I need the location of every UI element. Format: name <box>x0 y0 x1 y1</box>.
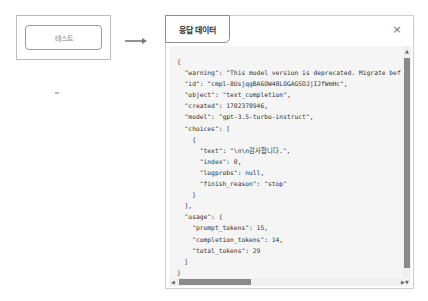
code-line: "created": 1702370946, <box>177 100 401 111</box>
response-data-modal: 응답 데이터 × { "warning": "This model versio… <box>165 15 414 289</box>
json-code-text: { "warning": "This model version is depr… <box>177 56 401 278</box>
code-line: } <box>177 256 401 267</box>
code-line: "warning": "This model version is deprec… <box>177 67 401 78</box>
code-line: { <box>177 134 401 145</box>
horizontal-scroll-thumb[interactable] <box>179 279 251 285</box>
code-line: } <box>177 267 401 278</box>
horizontal-scrollbar[interactable]: ◀ ▶ <box>169 278 403 286</box>
scroll-left-arrow-icon[interactable]: ◀ <box>169 278 177 286</box>
code-line: "index": 0, <box>177 156 401 167</box>
scroll-up-arrow-icon[interactable]: ▲ <box>403 47 411 55</box>
code-line: "model": "gpt-3.5-turbo-instruct", <box>177 111 401 122</box>
code-line: } <box>177 189 401 200</box>
code-line: { <box>177 56 401 67</box>
code-line: ], <box>177 200 401 211</box>
modal-title-tab: 응답 데이터 <box>165 15 230 43</box>
arrow-right-icon <box>125 38 147 44</box>
mouse-cursor-mark <box>55 92 59 94</box>
scroll-right-arrow-icon[interactable]: ▶ <box>399 278 407 286</box>
json-code-viewer[interactable]: { "warning": "This model version is depr… <box>169 46 411 286</box>
test-button[interactable]: 테스트 <box>25 25 102 50</box>
code-line: "object": "text_completion", <box>177 89 401 100</box>
code-line: "logprobs": null, <box>177 167 401 178</box>
vertical-scroll-thumb[interactable] <box>404 58 410 268</box>
close-icon[interactable]: × <box>391 24 403 36</box>
code-line: "choices": [ <box>177 123 401 134</box>
code-line: "prompt_tokens": 15, <box>177 222 401 233</box>
code-line: "text": "\n\n감사합니다.", <box>177 145 401 156</box>
code-line: "id": "cmpl-8UsjqgBA6OW48LOGAGSOJjIJfWmH… <box>177 78 401 89</box>
code-line: "completion_tokens": 14, <box>177 234 401 245</box>
code-line: "total_tokens": 29 <box>177 245 401 256</box>
trigger-container: 테스트 <box>16 15 111 60</box>
code-line: "usage": { <box>177 211 401 222</box>
code-line: "finish_reason": "stop" <box>177 178 401 189</box>
vertical-scrollbar[interactable]: ▲ ▼ <box>403 46 411 278</box>
